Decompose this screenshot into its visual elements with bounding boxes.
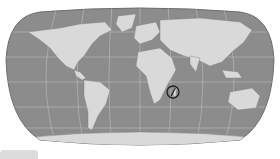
bottom-tab[interactable] bbox=[0, 150, 38, 159]
world-map bbox=[0, 0, 280, 159]
map-svg bbox=[0, 0, 280, 159]
